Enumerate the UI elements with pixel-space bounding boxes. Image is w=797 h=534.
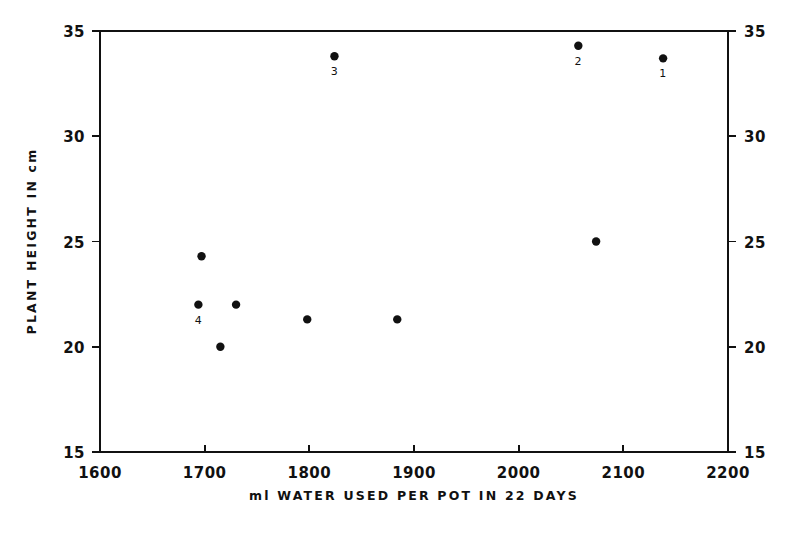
- data-point: [574, 42, 582, 50]
- x-tick-label: 2100: [601, 464, 645, 482]
- y-tick-label-right: 20: [744, 339, 766, 357]
- y-axis-title: PLANT HEIGHT IN cm: [24, 148, 39, 335]
- data-point-label: 2: [575, 55, 583, 68]
- data-point-label: 3: [331, 65, 339, 78]
- y-tick-label-right: 25: [744, 234, 766, 252]
- y-tick-label-right: 30: [744, 128, 766, 146]
- data-point: [194, 300, 202, 308]
- x-tick-label: 1700: [183, 464, 227, 482]
- scatter-chart: 1600170018001900200021002200 1520253035 …: [0, 0, 797, 534]
- y-tick-label-right: 35: [744, 23, 766, 41]
- x-tick-label: 1600: [78, 464, 122, 482]
- chart-background: [0, 0, 797, 534]
- data-point-label: 1: [659, 67, 667, 80]
- x-tick-label: 2200: [706, 464, 750, 482]
- y-tick-label-left: 30: [63, 128, 85, 146]
- x-tick-label: 1900: [392, 464, 436, 482]
- x-tick-label: 1800: [287, 464, 331, 482]
- y-tick-label-right: 15: [744, 444, 766, 462]
- y-tick-label-left: 35: [63, 23, 85, 41]
- y-tick-label-left: 20: [63, 339, 85, 357]
- data-point: [303, 315, 311, 323]
- data-point: [216, 343, 224, 351]
- data-point: [592, 237, 600, 245]
- data-point: [393, 315, 401, 323]
- data-point: [232, 300, 240, 308]
- x-tick-label: 2000: [497, 464, 541, 482]
- data-point-label: 4: [195, 314, 203, 327]
- data-point: [197, 252, 205, 260]
- data-point: [659, 54, 667, 62]
- y-tick-label-left: 15: [63, 444, 85, 462]
- y-tick-label-left: 25: [63, 234, 85, 252]
- x-axis-title: ml WATER USED PER POT IN 22 DAYS: [249, 488, 579, 503]
- data-point: [330, 52, 338, 60]
